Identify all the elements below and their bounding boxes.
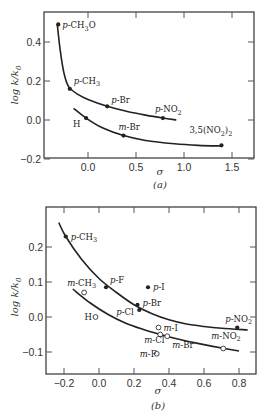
point-label: m-F [140, 349, 157, 359]
y-tick-label: 0.0 [28, 311, 43, 323]
data-point-filled [84, 116, 88, 120]
y-axis-label: log k/k0 [9, 277, 23, 316]
point-label: p-Br [111, 95, 131, 105]
y-axis-label: log k/k0 [9, 65, 23, 104]
point-label: p-NO2 [225, 314, 252, 327]
x-axis-label: σ [155, 385, 163, 396]
y-tick-label: 0.2 [28, 241, 43, 253]
point-label: m-Br [119, 122, 141, 132]
point-label: p-NO2 [155, 104, 182, 117]
point-label: p-Br [143, 298, 163, 308]
panel-label: (a) [153, 179, 167, 190]
y-tick-label: 0.2 [26, 75, 41, 87]
point-label: m-Cl [144, 335, 164, 345]
data-point-filled [68, 87, 72, 91]
data-point-filled [105, 104, 109, 108]
x-tick-label: 0.0 [92, 377, 107, 389]
data-point-filled [56, 22, 60, 26]
data-point-filled [137, 308, 141, 312]
data-point-filled [135, 303, 139, 307]
point-label: p-Cl [116, 307, 134, 317]
data-point-open [221, 346, 226, 351]
x-tick-label: −0.2 [54, 377, 75, 389]
data-point-filled [104, 285, 108, 289]
y-tick-label: 0.0 [26, 114, 41, 126]
point-label: H [85, 312, 92, 322]
data-point-open [82, 290, 87, 295]
panel-label: (b) [151, 400, 165, 411]
x-tick-label: 1.5 [225, 161, 240, 173]
point-label: p-CH3O [62, 20, 95, 33]
point-label: p-CH3 [74, 76, 100, 89]
point-label: m-CH3 [67, 278, 96, 291]
data-point-filled [146, 285, 150, 289]
y-tick-label: −0.1 [22, 346, 43, 358]
point-label: p-I [153, 282, 165, 292]
x-tick-label: 0.2 [127, 377, 142, 389]
y-tick-label: −0.2 [20, 153, 41, 165]
point-label: 3,5(NO2)2 [189, 125, 232, 138]
chart-panel-b: −0.20.00.20.40.60.8−0.10.00.10.2σ(b)log … [9, 207, 256, 411]
data-point-filled [235, 325, 239, 329]
y-tick-label: 0.4 [26, 36, 41, 48]
point-label: m-NO2 [211, 331, 240, 344]
data-point-filled [64, 234, 68, 238]
data-point-filled [161, 116, 165, 120]
chart-panel-a: 0.00.51.01.5−0.20.00.20.4σ(a)log k/k0p-C… [9, 12, 254, 190]
point-label: p-CH3 [71, 232, 97, 245]
x-tick-label: 0.8 [232, 377, 247, 389]
point-label: m-I [164, 323, 178, 333]
point-label: m-Br [172, 340, 194, 350]
data-point-filled [121, 134, 125, 138]
x-tick-label: 1.0 [177, 161, 192, 173]
point-label: H [73, 119, 80, 129]
data-point-open [156, 325, 161, 330]
x-tick-label: 0.5 [129, 161, 144, 173]
x-tick-label: 0.0 [81, 161, 96, 173]
hammett-plots: 0.00.51.01.5−0.20.00.20.4σ(a)log k/k0p-C… [0, 0, 266, 419]
data-point-open [93, 315, 98, 320]
x-axis-label: σ [157, 166, 165, 177]
point-label: p-F [110, 275, 124, 285]
x-tick-label: 0.6 [197, 377, 212, 389]
x-tick-label: 0.4 [162, 377, 177, 389]
data-point-open [165, 334, 170, 339]
data-point-filled [219, 143, 223, 147]
y-tick-label: 0.1 [28, 276, 43, 288]
